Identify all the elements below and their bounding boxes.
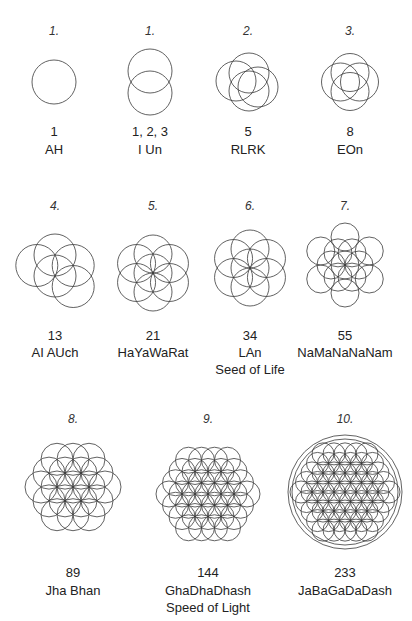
circle-shape xyxy=(331,223,359,251)
circle-shape xyxy=(216,61,256,101)
count-number: 8 xyxy=(290,124,410,139)
figure-name: Jha Bhan xyxy=(3,583,143,598)
count-number: 89 xyxy=(13,565,133,580)
step-label: 8. xyxy=(33,412,113,426)
figure-name: EOn xyxy=(280,142,412,157)
count-number: 233 xyxy=(285,565,405,580)
step-label: 10. xyxy=(305,412,385,426)
figure-11-flower-circles xyxy=(275,422,412,562)
figure-name: GhaDhaDhash xyxy=(138,583,278,598)
count-number: 55 xyxy=(285,328,405,343)
figure-name: JaBaGaDaDash xyxy=(275,583,412,598)
figure-subtitle: Speed of Light xyxy=(138,600,278,615)
figure-9-fruit-circles xyxy=(3,417,143,557)
figure-8-egg-circles xyxy=(275,195,412,335)
step-label: 3. xyxy=(310,24,390,38)
step-label: 9. xyxy=(168,412,248,426)
step-label: 2. xyxy=(208,24,288,38)
figure-10-hex3-circles xyxy=(138,424,278,564)
count-number: 144 xyxy=(148,565,268,580)
circle-shape xyxy=(32,60,76,104)
figure-subtitle: Seed of Life xyxy=(180,362,320,377)
step-label: 7. xyxy=(305,199,385,213)
circle-shape xyxy=(229,53,269,93)
figure-name: NaMaNaNaNam xyxy=(275,345,412,360)
circle-shape xyxy=(331,279,359,307)
